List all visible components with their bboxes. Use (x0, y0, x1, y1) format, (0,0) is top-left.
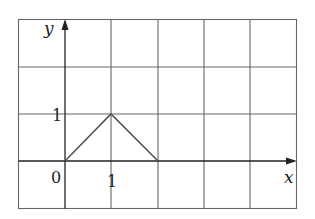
y-axis-arrow-icon (62, 19, 69, 30)
y-tick-label: 1 (52, 106, 62, 125)
x-axis-arrow-icon (286, 158, 297, 165)
x-tick-label: 1 (107, 172, 117, 191)
x-axis-label: x (284, 167, 294, 187)
y-axis-label: y (43, 18, 54, 38)
coordinate-diagram: y x 0 1 1 (0, 0, 315, 219)
origin-label: 0 (51, 168, 61, 187)
